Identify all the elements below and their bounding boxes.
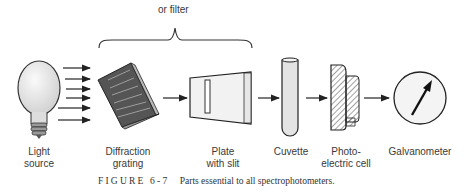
figure-number: FIGURE 6-7 [98,176,169,186]
label-photoelectric-cell: Photo- electric cell [316,146,376,170]
label-line: with slit [196,158,250,170]
label-line: Cuvette [266,146,316,158]
label-line: electric cell [316,158,376,170]
galvanometer-icon [394,72,446,124]
label-line: grating [96,158,160,170]
cuvette-icon [282,58,298,136]
label-light-source: Light source [16,146,62,170]
label-cuvette: Cuvette [266,146,316,158]
diffraction-grating-icon [98,63,159,129]
label-line: Diffraction [96,146,160,158]
plate-with-slit-icon [190,72,251,124]
label-line: Galvanometer [380,146,460,158]
label-line: Plate [196,146,250,158]
label-plate-with-slit: Plate with slit [196,146,250,170]
figure-caption: FIGURE 6-7 Parts essential to all spectr… [98,176,335,186]
label-line: Light [16,146,62,158]
light-bulb-icon [18,61,60,139]
label-line: source [16,158,62,170]
label-line: Photo- [316,146,376,158]
photoelectric-cell-icon [331,65,359,130]
label-galvanometer: Galvanometer [380,146,460,158]
caption-text: Parts essential to all spectrophotometer… [180,176,335,186]
light-ray-arrows [58,68,90,120]
bracket [99,28,252,48]
label-diffraction-grating: Diffraction grating [96,146,160,170]
